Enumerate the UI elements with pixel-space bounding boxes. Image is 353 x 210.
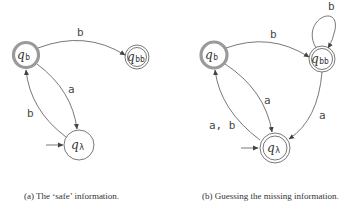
edge-qbb-ql — [289, 72, 322, 139]
state-qb: qb — [201, 42, 227, 68]
state-qb: qb — [14, 43, 39, 68]
figure-a: b a b qb qbb qλ (a) The ‘safe’ informati… — [14, 26, 150, 201]
state-qbb: qbb — [309, 46, 335, 72]
figure-b: b b a a, b a qb qbb qλ (b) Guessing the … — [201, 0, 339, 201]
edge-qb-ql — [37, 64, 77, 129]
edge-label-qbb-loop: b — [328, 0, 335, 13]
state-qbb: qbb — [125, 45, 149, 69]
edge-label-qbb-ql: a — [319, 109, 326, 122]
edge-label-qb-ql: a — [68, 83, 75, 96]
edge-label-qb-qbb: b — [77, 26, 84, 39]
edge-label-qb-ql: a — [264, 94, 271, 107]
caption-a: (a) The ‘safe’ information. — [24, 191, 119, 201]
edge-qb-qbb — [38, 40, 125, 55]
edge-label-ql-qb: b — [27, 107, 34, 120]
state-ql: qλ — [260, 133, 290, 163]
edge-label-qb-qbb: b — [270, 28, 277, 41]
edge-ql-qb — [26, 70, 66, 137]
caption-b: (b) Guessing the missing information. — [202, 191, 339, 201]
edge-qb-qbb — [226, 42, 309, 57]
edge-qbb-loop — [312, 16, 335, 48]
edge-label-ql-qb: a, b — [209, 119, 236, 132]
automata-figure: b a b qb qbb qλ (a) The ‘safe’ informati… — [0, 0, 353, 210]
state-ql: qλ — [64, 130, 94, 160]
